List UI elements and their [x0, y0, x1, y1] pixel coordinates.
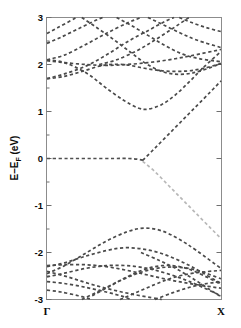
band-curve-cb-band-5 [47, 18, 103, 44]
y-tick-label-neg2: -2 [35, 247, 43, 258]
band-curve-vb-band-6-desc [47, 290, 92, 299]
y-tick-label-0: 0 [38, 153, 43, 164]
y-tick-label-neg3: -3 [35, 294, 43, 305]
band-curve-cb-band-9-desc [148, 18, 221, 48]
band-curve-conduction-linear-up [143, 81, 221, 160]
band-structure-figure: 3 2 1 0 -1 -2 -3 E–EF (eV) Γ X [0, 0, 241, 328]
y-axis-title-main: E–E [9, 161, 20, 180]
band-curve-cb-band-10-desc [179, 18, 221, 32]
y-tick-label-1: 1 [38, 106, 44, 117]
y-axis-title-unit: (eV) [9, 136, 20, 158]
y-axis-right-ticks [217, 65, 222, 253]
svg-text:E–EF (eV): E–EF (eV) [9, 136, 22, 181]
band-curve-vb-band-11-cross [47, 271, 162, 299]
band-curve-cb-band-2 [47, 64, 221, 79]
band-curve-cb-band-7-desc [82, 18, 221, 75]
band-curve-cb-band-6 [47, 18, 77, 34]
band-structure-plot: 3 2 1 0 -1 -2 -3 E–EF (eV) Γ X [0, 0, 241, 328]
y-tick-labels: 3 2 1 0 -1 -2 -3 [35, 12, 44, 305]
y-tick-label-neg1: -1 [35, 200, 44, 211]
band-curves-group [47, 18, 221, 300]
band-curve-cb-band-11-cross [99, 18, 189, 65]
y-tick-label-2: 2 [38, 59, 43, 70]
band-curve-valence-linear-down-faint [143, 161, 221, 238]
y-tick-label-3: 3 [38, 12, 43, 23]
band-curve-flat-zero-band [47, 158, 144, 160]
y-axis-title: E–EF (eV) [9, 136, 22, 181]
x-tick-label-gamma: Γ [44, 305, 51, 317]
band-curve-cb-dip-band [47, 51, 221, 109]
x-tick-label-x: X [217, 305, 225, 317]
